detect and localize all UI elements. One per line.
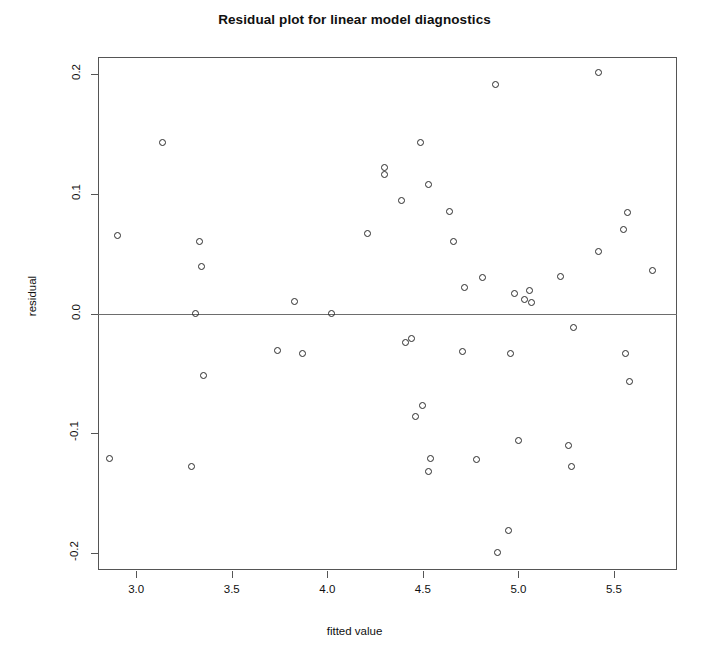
scatter-point [450,238,457,245]
scatter-point [622,350,629,357]
y-tick-label: 0.2 [0,66,84,78]
scatter-point [159,139,166,146]
y-tick-label-text: -0.1 [68,421,80,441]
y-tick-label: 0.1 [0,186,84,198]
y-tick-mark [91,74,98,75]
scatter-point [459,348,466,355]
scatter-point [515,437,522,444]
scatter-point [528,299,535,306]
y-tick-label: 0.0 [0,306,84,318]
scatter-point [461,284,468,291]
scatter-point [479,274,486,281]
x-tick-mark [423,571,424,578]
scatter-point [106,455,113,462]
scatter-point [188,463,195,470]
y-axis-label: residual [26,256,38,336]
x-tick-label: 5.5 [584,583,644,595]
x-tick-label: 3.0 [106,583,166,595]
scatter-point [624,209,631,216]
x-tick-mark [614,571,615,578]
scatter-point [408,335,415,342]
scatter-point [198,263,205,270]
scatter-point [595,248,602,255]
scatter-point [398,197,405,204]
y-tick-label: -0.1 [0,425,84,437]
scatter-point [192,310,199,317]
x-tick-mark [232,571,233,578]
x-tick-label: 5.0 [488,583,548,595]
y-tick-mark [91,194,98,195]
scatter-point [200,372,207,379]
y-tick-mark [91,314,98,315]
scatter-point [521,296,528,303]
scatter-point [649,267,656,274]
scatter-point [565,442,572,449]
scatter-point [417,139,424,146]
scatter-point [412,413,419,420]
y-tick-mark [91,553,98,554]
y-tick-label-text: 0.1 [70,184,82,200]
page-title: Residual plot for linear model diagnosti… [0,12,709,27]
scatter-point [494,549,501,556]
scatter-point [419,402,426,409]
scatter-point [381,164,388,171]
scatter-point [626,378,633,385]
x-axis-label: fitted value [0,625,709,637]
scatter-point [381,171,388,178]
scatter-point [425,181,432,188]
scatter-point [595,69,602,76]
scatter-point [505,527,512,534]
scatter-point [507,350,514,357]
x-tick-mark [518,571,519,578]
x-tick-label: 3.5 [202,583,262,595]
zero-reference-line [98,314,677,315]
scatter-point [557,273,564,280]
scatter-point [274,347,281,354]
scatter-point [511,290,518,297]
scatter-point [526,287,533,294]
scatter-point [570,324,577,331]
scatter-point [425,468,432,475]
x-tick-mark [327,571,328,578]
x-tick-label: 4.0 [297,583,357,595]
scatter-point [492,81,499,88]
x-tick-mark [136,571,137,578]
scatter-point [114,232,121,239]
plot-canvas [98,57,677,570]
y-tick-label: -0.2 [0,545,84,557]
scatter-point [620,226,627,233]
scatter-point [196,238,203,245]
scatter-point [568,463,575,470]
y-tick-mark [91,433,98,434]
scatter-point [473,456,480,463]
scatter-point [299,350,306,357]
scatter-point [427,455,434,462]
scatter-point [446,208,453,215]
x-tick-label: 4.5 [393,583,453,595]
y-tick-label-text: -0.2 [68,541,80,561]
residual-plot-figure: Residual plot for linear model diagnosti… [0,0,709,662]
y-tick-label-text: 0.2 [70,64,82,80]
scatter-point [328,310,335,317]
y-tick-label-text: 0.0 [70,304,82,320]
scatter-point [291,298,298,305]
scatter-point [364,230,371,237]
